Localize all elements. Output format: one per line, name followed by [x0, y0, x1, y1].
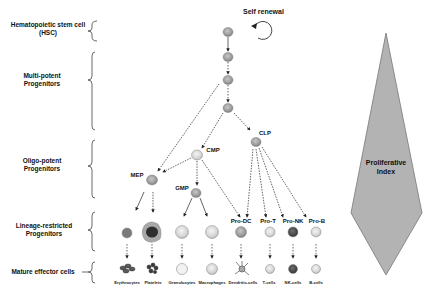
stage-label-lineage-line2: Progenitors	[2, 230, 86, 238]
mature-label-t-cells: T-cells	[262, 280, 275, 285]
stage-label-oligopotent-line1: Oligo-potent	[2, 157, 82, 165]
mature-label-dendritic-cells: Dendritic-cells	[229, 280, 258, 285]
stage-label-oligopotent: Oligo-potent Progenitors	[2, 157, 82, 173]
mature-label-macrophages: Macrophages	[199, 280, 226, 285]
mature-label-nk-cells: NK-cells	[285, 280, 302, 285]
proliferative-index-line1: Proliferative	[356, 158, 416, 167]
multipotent-cell-2	[223, 76, 233, 85]
stage-label-multipotent: Multi-potent Progenitors	[2, 72, 82, 88]
dendritic-cell	[235, 261, 249, 275]
self-renewal-arrow-icon	[251, 21, 272, 39]
stage-label-hsc-line2: (HSC)	[2, 29, 94, 37]
mep-cell	[147, 175, 158, 185]
mature-label-b-cells: B-cells	[309, 280, 323, 285]
pro-dc-cell	[236, 227, 247, 238]
stage-label-multipotent-line1: Multi-potent	[2, 72, 82, 80]
pro-t-cell	[265, 227, 275, 237]
mature-label-erythrocytes: Erythrocytes	[114, 280, 140, 285]
nk-cell	[289, 265, 298, 274]
b-cell	[312, 265, 321, 274]
stage-label-lineage-line1: Lineage-restricted	[2, 222, 86, 230]
mep-label: MEP	[130, 172, 143, 178]
hsc-cell	[223, 28, 233, 37]
granulocyte-progenitor-cell	[176, 226, 189, 239]
brace-multipotent	[88, 52, 95, 130]
mature-label-platelets: Platelets	[144, 280, 161, 285]
stage-label-hsc: Hematopoietic stem cell (HSC)	[2, 21, 94, 37]
clp-label: CLP	[259, 130, 271, 136]
multipotent-cell-1	[223, 53, 233, 62]
stage-label-lineage: Lineage-restricted Progenitors	[2, 222, 86, 238]
mature-label-granulocytes: Granulocytes	[169, 280, 196, 285]
self-renewal-label: Self renewal	[243, 8, 284, 15]
erythrocytes-cluster	[120, 264, 135, 273]
multipotent-cell-3	[223, 104, 233, 113]
platelets-cluster	[147, 263, 158, 274]
granulocyte-cell	[177, 264, 188, 275]
proliferative-index-shape	[351, 33, 422, 275]
proliferative-index-line2: Index	[356, 167, 416, 176]
clp-cell	[251, 138, 261, 147]
stage-label-mature-line1: Mature effector cells	[2, 268, 84, 276]
stage-label-mature: Mature effector cells	[2, 268, 84, 276]
brace-oligopotent	[88, 140, 95, 198]
brace-lineage	[88, 212, 95, 251]
pro-b-cell	[311, 227, 321, 237]
t-cell	[266, 265, 275, 274]
macrophage-cell	[207, 264, 218, 275]
cmp-cell	[192, 150, 203, 160]
gmp-cell	[191, 189, 201, 198]
cmp-label: CMP	[206, 147, 219, 153]
proliferative-index-label: Proliferative Index	[356, 158, 416, 176]
pro-nk-cell	[288, 227, 298, 237]
gmp-label: GMP	[175, 185, 189, 191]
stage-label-hsc-line1: Hematopoietic stem cell	[2, 21, 94, 29]
erythroid-progenitor-cell	[122, 228, 132, 238]
stage-label-multipotent-line2: Progenitors	[2, 80, 82, 88]
brace-mature	[88, 262, 95, 283]
pro-nk-label: Pro-NK	[283, 218, 304, 224]
macrophage-progenitor-cell	[206, 226, 219, 239]
pro-b-label: Pro-B	[309, 218, 325, 224]
pro-dc-label: Pro-DC	[231, 218, 252, 224]
stage-label-oligopotent-line2: Progenitors	[2, 165, 82, 173]
pro-t-label: Pro-T	[260, 218, 276, 224]
